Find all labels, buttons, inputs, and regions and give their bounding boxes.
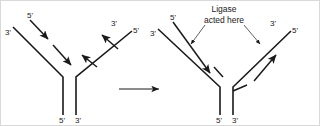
left-outer-strand-right — [76, 31, 132, 115]
left-fragment-1 — [30, 20, 48, 39]
pointer-left — [191, 25, 205, 44]
label-right-top-left-inner: 5' — [170, 13, 176, 22]
label-left-top-left-inner: 5' — [27, 11, 33, 20]
label-right-top-right-inner: 3' — [270, 19, 276, 28]
label-right-top-left-outer: 3' — [150, 29, 156, 38]
annotation-line-1: Ligase — [211, 4, 236, 14]
right-fragment-left-tail — [214, 67, 223, 77]
label-left-top-right-outer: 5' — [133, 26, 139, 35]
replication-fork-figure: 3' 5' 3' 5' 5' 3' — [0, 0, 320, 126]
label-right-top-right-outer: 5' — [292, 26, 298, 35]
label-left-stem-right: 3' — [75, 116, 81, 125]
label-left-stem-left: 5' — [59, 116, 65, 125]
right-outer-strand-left — [158, 29, 220, 115]
pointer-right — [244, 25, 260, 44]
right-ligated-strand-right — [254, 55, 276, 81]
label-right-stem-left: 5' — [216, 116, 222, 125]
diagram-canvas: 3' 5' 3' 5' 5' 3' — [1, 1, 320, 126]
label-left-top-left-outer: 3' — [5, 28, 11, 37]
left-fragment-2 — [53, 45, 71, 65]
left-panel-before-ligation: 3' 5' 3' 5' 5' 3' — [5, 11, 139, 125]
left-outer-strand-left — [13, 27, 63, 115]
right-panel-after-ligation: Ligase acted here 3' 5' 3' 5' 5' 3' — [150, 4, 298, 125]
annotation-line-2: acted here — [204, 15, 244, 25]
label-left-top-right-inner: 3' — [111, 19, 117, 28]
left-fragment-4 — [102, 35, 118, 49]
label-right-stem-right: 3' — [232, 116, 238, 125]
right-outer-strand-right — [233, 31, 291, 115]
